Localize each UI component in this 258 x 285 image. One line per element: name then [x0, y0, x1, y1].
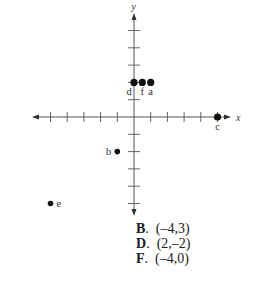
- answer-choice-b: B. (–4,3): [136, 221, 190, 236]
- x-axis-left-arrow-icon: [32, 115, 39, 120]
- answer-choices: B. (–4,3) D. (2,–2) F. (–4,0): [136, 221, 190, 266]
- answer-text: (–4,0): [155, 251, 189, 266]
- y-axis-label: y: [131, 1, 137, 12]
- point-label-b: b: [106, 146, 111, 157]
- point-a: [147, 79, 154, 86]
- point-c: [214, 113, 221, 120]
- point-label-e: e: [57, 198, 62, 209]
- coordinate-plane: abcdef x y: [0, 0, 258, 220]
- answer-choice-f: F. (–4,0): [136, 251, 190, 266]
- answer-letter: F: [136, 251, 145, 266]
- y-axis-down-arrow-icon: [132, 209, 137, 216]
- point-label-c: c: [215, 121, 220, 132]
- x-axis-label: x: [235, 112, 241, 123]
- y-axis-up-arrow-icon: [132, 13, 137, 20]
- x-axis-right-arrow-icon: [224, 115, 231, 120]
- answer-choice-d: D. (2,–2): [136, 236, 190, 251]
- answer-text: (–4,3): [156, 221, 190, 236]
- answer-letter: B: [136, 221, 145, 236]
- answer-letter: D: [136, 236, 146, 251]
- point-d: [130, 79, 137, 86]
- point-e: [48, 201, 54, 207]
- point-f: [139, 79, 146, 86]
- point-label-a: a: [148, 86, 153, 97]
- answer-text: (2,–2): [157, 236, 191, 251]
- point-label-d: d: [126, 86, 132, 97]
- point-label-f: f: [141, 86, 145, 97]
- point-b: [115, 149, 121, 155]
